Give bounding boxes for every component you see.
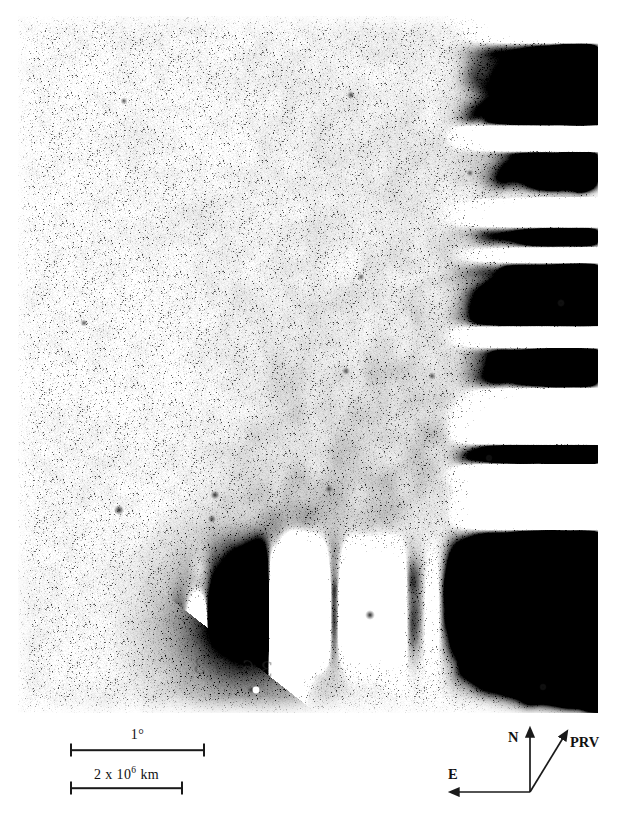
- east-label: E: [448, 766, 458, 783]
- comet-plate-figure: 36.73 1° 2 x 106 km N: [0, 0, 618, 822]
- plate-image: [18, 16, 598, 713]
- photographic-plate: 36.73: [18, 16, 598, 713]
- linear-scale-tick-right: [181, 782, 183, 795]
- linear-scale-prefix: 2 x 10: [94, 767, 131, 782]
- prv-arrow: [530, 738, 563, 792]
- linear-scale-unit: km: [140, 767, 159, 782]
- prv-label: PRV: [570, 734, 599, 751]
- angular-scale-rule: [70, 749, 205, 751]
- linear-scale-label: 2 x 106 km: [70, 765, 183, 783]
- angular-scale-tick-right: [203, 744, 205, 757]
- angular-scale-label: 1°: [70, 727, 205, 743]
- angular-scale-value: 1°: [131, 727, 144, 742]
- angular-scale-tick-left: [70, 744, 72, 757]
- linear-scale-rule: [70, 787, 183, 789]
- north-label: N: [508, 729, 518, 746]
- linear-scale-tick-left: [70, 782, 72, 795]
- angular-scale-bar: [70, 743, 205, 757]
- linear-scale-exponent: 6: [131, 765, 136, 775]
- linear-scale-bar: [70, 781, 183, 795]
- direction-key: N E PRV: [410, 722, 610, 812]
